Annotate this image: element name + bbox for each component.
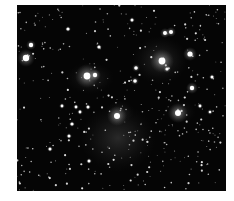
star-cluster-photo: Star cluster with reflection nebulosity (17, 5, 226, 191)
star-field-canvas (17, 5, 226, 191)
